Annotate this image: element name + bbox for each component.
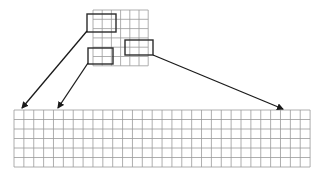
arrow-icon xyxy=(22,31,87,108)
grid-mapping-diagram xyxy=(0,0,321,180)
source-grid xyxy=(93,10,148,66)
arrow-icon xyxy=(58,63,88,108)
highlight-box-patch-2 xyxy=(88,48,113,64)
arrow-icon xyxy=(153,55,283,109)
target-grid xyxy=(14,110,310,167)
